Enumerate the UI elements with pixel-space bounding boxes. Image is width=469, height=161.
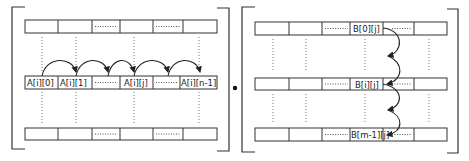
matrix-b-right-bracket	[447, 9, 458, 153]
matrix-b-column-dots	[273, 39, 429, 124]
matrix-a: A[i][0] A[i][1] A[i][j] A[i][n-1]	[12, 7, 229, 151]
matrix-multiplication-diagram: A[i][0] A[i][1] A[i][j] A[i][n-1]	[0, 0, 469, 161]
cell-a-i-1: A[i][1]	[60, 78, 87, 88]
matrix-b-left-bracket	[242, 7, 255, 152]
multiply-operator-icon	[233, 86, 237, 90]
cell-b-m-1-j: B[m-1][j]	[351, 130, 389, 140]
matrix-a-left-bracket	[12, 7, 25, 149]
matrix-b-row-i: B[i][j]	[255, 78, 447, 90]
matrix-b-bottom-row: B[m-1][j]	[255, 128, 447, 141]
cell-a-i-j: A[i][j]	[124, 78, 148, 88]
matrix-a-right-bracket	[217, 8, 229, 151]
row-traversal-arrows	[42, 60, 200, 76]
cell-a-i-n-1: A[i][n-1]	[181, 78, 216, 88]
matrix-b: B[0][j] B[i][j]	[242, 7, 458, 153]
cell-a-i-0: A[i][0]	[27, 78, 54, 88]
matrix-a-top-row	[25, 20, 217, 33]
matrix-a-bottom-row	[25, 128, 217, 140]
cell-b-0-j: B[0][j]	[353, 24, 380, 34]
matrix-b-top-row: B[0][j]	[255, 22, 447, 35]
column-traversal-arrows	[383, 28, 400, 135]
matrix-a-row-i: A[i][0] A[i][1] A[i][j] A[i][n-1]	[25, 76, 217, 89]
cell-b-i-j: B[i][j]	[355, 80, 379, 90]
